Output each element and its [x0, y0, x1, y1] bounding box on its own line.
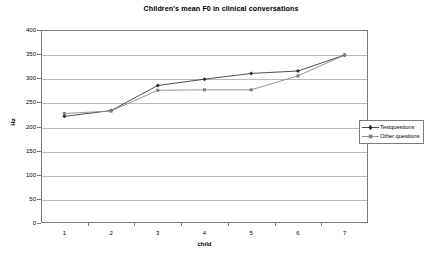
- y-tick-label: 300: [26, 75, 36, 81]
- data-point-diamond: [156, 83, 160, 87]
- data-series-layer: [41, 30, 368, 223]
- y-tick-label: 0: [33, 220, 36, 226]
- legend-item[interactable]: Other questions: [362, 132, 420, 141]
- x-tick-label: 2: [109, 230, 112, 236]
- x-tick-mark: [181, 223, 182, 226]
- data-point-square: [296, 74, 299, 77]
- x-tick-mark: [228, 223, 229, 226]
- chart-container: Children's mean F0 in clinical conversat…: [0, 0, 442, 269]
- y-tick-label: 350: [26, 51, 36, 57]
- x-axis-title: child: [41, 241, 368, 247]
- legend-item[interactable]: Testquestions: [362, 123, 420, 132]
- series-2: [63, 54, 346, 115]
- x-tick-mark: [134, 223, 135, 226]
- data-point-square: [203, 88, 206, 91]
- data-point-diamond: [296, 69, 300, 73]
- data-point-square: [110, 110, 113, 113]
- x-tick-mark: [321, 223, 322, 226]
- chart-title: Children's mean F0 in clinical conversat…: [0, 4, 442, 13]
- legend-label: Testquestions: [379, 123, 414, 132]
- data-point-square: [250, 88, 253, 91]
- x-tick-label: 5: [250, 230, 253, 236]
- y-axis-ticks: 050100150200250300350400: [0, 30, 41, 223]
- data-point-square: [63, 112, 66, 115]
- x-tick-mark: [275, 223, 276, 226]
- legend-marker-diamond-icon: [362, 123, 379, 132]
- x-tick-mark: [88, 223, 89, 226]
- y-tick-label: 100: [26, 172, 36, 178]
- legend-marker-square-icon: [362, 132, 379, 141]
- legend-label: Other questions: [379, 132, 420, 141]
- series-line: [64, 55, 344, 113]
- x-axis-ticks: 1234567: [41, 223, 368, 253]
- x-tick-label: 3: [156, 230, 159, 236]
- y-tick-label: 400: [26, 27, 36, 33]
- series-1: [62, 53, 346, 118]
- chart-legend: Testquestions Other questions: [359, 120, 424, 144]
- series-line: [64, 55, 344, 116]
- x-tick-label: 1: [63, 230, 66, 236]
- x-tick-label: 4: [203, 230, 206, 236]
- y-tick-label: 200: [26, 124, 36, 130]
- data-point-square: [343, 54, 346, 57]
- x-tick-label: 6: [296, 230, 299, 236]
- data-point-diamond: [249, 71, 253, 75]
- x-tick-label: 7: [343, 230, 346, 236]
- y-tick-label: 250: [26, 99, 36, 105]
- y-tick-label: 50: [29, 196, 36, 202]
- y-tick-label: 150: [26, 148, 36, 154]
- data-point-square: [156, 89, 159, 92]
- data-point-diamond: [203, 77, 207, 81]
